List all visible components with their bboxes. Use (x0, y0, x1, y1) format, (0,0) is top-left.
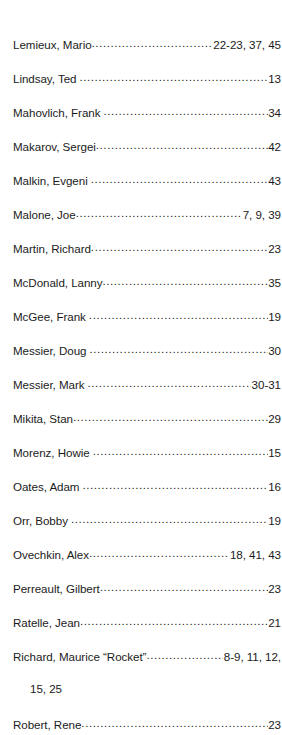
index-entry-row: Lindsay, Ted13 (13, 70, 281, 85)
index-entry: Oates, Adam16 (13, 478, 281, 512)
dot-leader (93, 444, 268, 457)
index-entry: McDonald, Lanny35 (13, 274, 281, 308)
dot-leader (81, 716, 267, 729)
dot-leader (79, 70, 267, 83)
index-entry-pages: 29 (268, 412, 281, 425)
index-entry-name: Malone, Joe (13, 208, 76, 221)
dot-leader (73, 410, 268, 423)
index-entry-row: McDonald, Lanny35 (13, 274, 281, 289)
index-entry-pages: 8-9, 11, 12, (223, 650, 281, 663)
index-entry-row: Mikita, Stan29 (13, 410, 281, 425)
index-entry: Orr, Bobby19 (13, 512, 281, 546)
index-entry-name: Mahovlich, Frank (13, 106, 100, 119)
dot-leader (91, 240, 268, 253)
index-entry: Ovechkin, Alex18, 41, 43 (13, 546, 281, 580)
index-entry: Morenz, Howie15 (13, 444, 281, 478)
index-entry-row: Lemieux, Mario22-23, 37, 45 (13, 36, 281, 51)
index-entry-row: Messier, Doug30 (13, 342, 281, 357)
index-entry: Lindsay, Ted13 (13, 70, 281, 104)
index-entry-pages: 23 (268, 718, 281, 731)
index-entry-pages: 34 (268, 106, 281, 119)
index-entry-row: Malkin, Evgeni43 (13, 172, 281, 187)
index-entry-name: Malkin, Evgeni (13, 174, 88, 187)
index-entry-pages: 19 (268, 310, 281, 323)
index-entry-pages: 42 (268, 140, 281, 153)
index-entry-pages: 16 (268, 480, 281, 493)
index-entry-pages: 15 (268, 446, 281, 459)
index-entry: Ratelle, Jean21 (13, 614, 281, 648)
index-entry-pages: 30 (268, 344, 281, 357)
dot-leader (80, 614, 268, 627)
index-entry-name: Lemieux, Mario (13, 38, 92, 51)
index-entry-pages: 7, 9, 39 (242, 208, 281, 221)
index-entry: Perreault, Gilbert23 (13, 580, 281, 614)
dot-leader (88, 376, 252, 389)
index-entry-pages: 30-31 (251, 378, 281, 391)
dot-leader (76, 206, 243, 219)
dot-leader (92, 36, 213, 49)
index-entry-pages: 21 (268, 616, 281, 629)
index-entry: Messier, Doug30 (13, 342, 281, 376)
index-entry-name: McGee, Frank (13, 310, 86, 323)
index-entry-pages: 35 (268, 276, 281, 289)
index-entry: Mahovlich, Frank34 (13, 104, 281, 138)
index-entry: Makarov, Sergei42 (13, 138, 281, 172)
dot-leader (89, 308, 268, 321)
index-entry: Lemieux, Mario22-23, 37, 45 (13, 36, 281, 70)
index-entry-name: Lindsay, Ted (13, 72, 76, 85)
index-entry-continuation: 15, 25 (30, 682, 62, 695)
index-entry-pages: 43 (268, 174, 281, 187)
index-entry-row: Orr, Bobby19 (13, 512, 281, 527)
index-entry-pages: 19 (268, 514, 281, 527)
index-entry-name: Ovechkin, Alex (13, 548, 89, 561)
index-entry-pages: 23 (268, 582, 281, 595)
dot-leader (91, 172, 268, 185)
index-entry: Messier, Mark30-31 (13, 376, 281, 410)
index-entry: Malkin, Evgeni43 (13, 172, 281, 206)
index-entry-row: Richard, Maurice “Rocket”8-9, 11, 12, (13, 648, 281, 663)
index-entry-row: Ovechkin, Alex18, 41, 43 (13, 546, 281, 561)
index-entry: Martin, Richard23 (13, 240, 281, 274)
index-entry-name: Robert, Rene (13, 718, 81, 731)
index-entry-name: Ratelle, Jean (13, 616, 80, 629)
index-entry: McGee, Frank19 (13, 308, 281, 342)
index-entry-row: Mahovlich, Frank34 (13, 104, 281, 119)
index-entry-row: Malone, Joe7, 9, 39 (13, 206, 281, 221)
index-entry: Mikita, Stan29 (13, 410, 281, 444)
index-entry-row: Perreault, Gilbert23 (13, 580, 281, 595)
dot-leader (89, 546, 229, 559)
dot-leader (89, 342, 267, 355)
index-entry-name: Perreault, Gilbert (13, 582, 100, 595)
dot-leader (102, 274, 267, 287)
dot-leader (146, 648, 223, 661)
index-entry: Robert, Rene23 (13, 716, 281, 735)
index-entry-row: Messier, Mark30-31 (13, 376, 281, 391)
index-entry-row: Ratelle, Jean21 (13, 614, 281, 629)
dot-leader (96, 138, 268, 151)
index-entry-pages: 22-23, 37, 45 (213, 38, 281, 51)
index-entry-name: Makarov, Sergei (13, 140, 96, 153)
index-entry-name: Messier, Mark (13, 378, 85, 391)
dot-leader (82, 478, 267, 491)
index-entry-pages: 23 (268, 242, 281, 255)
index-entry: Malone, Joe7, 9, 39 (13, 206, 281, 240)
index-entry: Richard, Maurice “Rocket”8-9, 11, 12,15,… (13, 648, 281, 716)
dot-leader (100, 580, 268, 593)
index-entry-row: Makarov, Sergei42 (13, 138, 281, 153)
index-entry-row: Morenz, Howie15 (13, 444, 281, 459)
index-entry-pages: 18, 41, 43 (229, 548, 281, 561)
index-entry-row: McGee, Frank19 (13, 308, 281, 323)
index-entry-name: Oates, Adam (13, 480, 79, 493)
index-entry-name: Morenz, Howie (13, 446, 90, 459)
index-entry-name: Mikita, Stan (13, 412, 73, 425)
index-entry-name: Orr, Bobby (13, 514, 68, 527)
index-entry-pages: 13 (268, 72, 281, 85)
dot-leader (71, 512, 268, 525)
index-entry-row: Oates, Adam16 (13, 478, 281, 493)
index-entry-name: McDonald, Lanny (13, 276, 102, 289)
index-entry-row: Robert, Rene23 (13, 716, 281, 731)
index-entry-name: Richard, Maurice “Rocket” (13, 650, 146, 663)
dot-leader (103, 104, 267, 117)
index-entry-name: Martin, Richard (13, 242, 91, 255)
index-entry-row: Martin, Richard23 (13, 240, 281, 255)
